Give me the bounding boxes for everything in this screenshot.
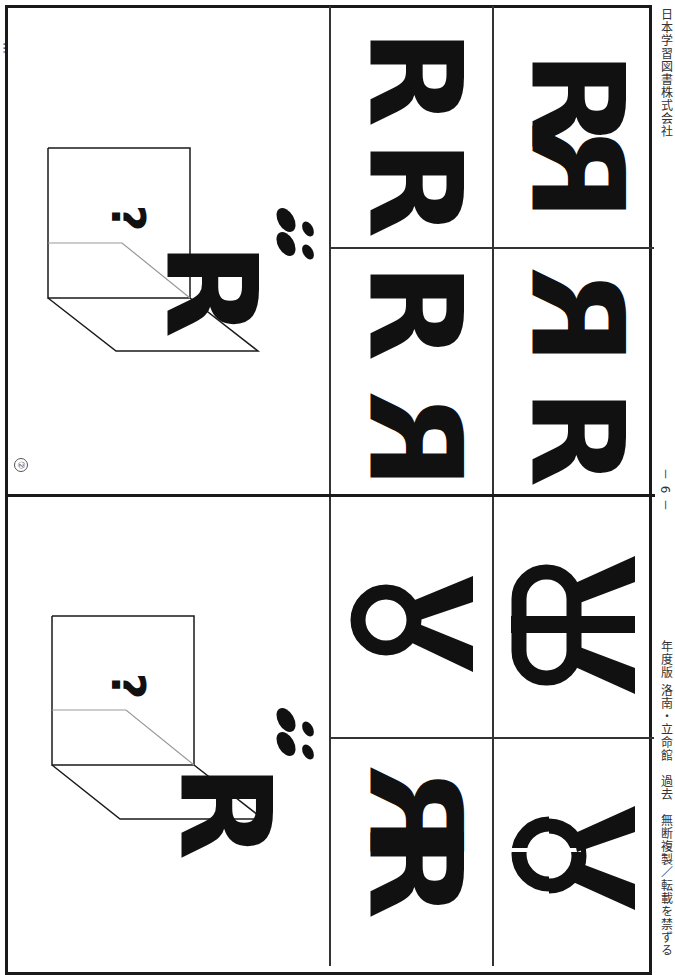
- svg-text:R: R: [503, 389, 652, 488]
- publisher-label: 日本学習図書株式会社: [657, 8, 674, 158]
- footer-copyright: 年度版 洛南・立命館 過去 無断複製／転載を禁ずる: [657, 640, 674, 957]
- svg-text:R: R: [341, 29, 490, 128]
- choice-upper-4[interactable]: R R: [493, 248, 654, 494]
- footprints-icon: [273, 705, 317, 762]
- choice-lower-4[interactable]: [493, 738, 654, 960]
- upper-stimulus-illustration: ? R: [30, 0, 330, 490]
- svg-text:?: ?: [101, 205, 155, 232]
- svg-text:R: R: [341, 391, 490, 490]
- svg-text:?: ?: [101, 673, 155, 700]
- choice-lower-1[interactable]: [330, 496, 492, 737]
- choice-upper-1[interactable]: R R: [330, 6, 492, 247]
- question-number-marker: ②: [14, 458, 28, 472]
- page-number: － 6 －: [657, 468, 674, 512]
- lower-stimulus-illustration: ? R: [30, 490, 330, 960]
- svg-text:R: R: [153, 764, 298, 860]
- svg-text:R: R: [341, 263, 490, 362]
- svg-text:R: R: [139, 242, 284, 338]
- svg-text:R: R: [503, 267, 652, 366]
- svg-text:R: R: [341, 821, 490, 920]
- svg-text:R: R: [341, 140, 490, 239]
- choice-lower-3[interactable]: R R: [330, 738, 492, 960]
- header-partial-text: …: [0, 42, 8, 54]
- choice-upper-2[interactable]: R R: [493, 6, 654, 247]
- svg-text:R: R: [503, 123, 652, 222]
- choice-upper-3[interactable]: R R: [330, 248, 492, 494]
- choice-lower-2[interactable]: [493, 496, 654, 737]
